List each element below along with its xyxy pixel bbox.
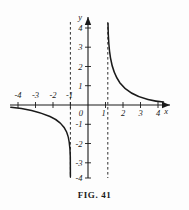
curve-left-branch <box>11 107 71 176</box>
curve-right-branch <box>108 24 164 103</box>
y-tick-label-3: 3 <box>77 42 82 52</box>
y-axis-label: y <box>77 12 82 22</box>
y-tick-label--1: -1 <box>75 119 82 129</box>
x-tick-label-2: 2 <box>121 108 126 118</box>
y-tick-label--2: -2 <box>75 139 83 149</box>
x-tick-label--3: -3 <box>32 90 39 100</box>
x-tick-label-3: 3 <box>137 108 142 118</box>
x-tick-label-1: 1 <box>101 108 105 118</box>
x-axis-label: x <box>163 106 168 116</box>
y-tick-label-2: 2 <box>78 62 83 72</box>
caption-text: FIG. 41 <box>78 190 112 200</box>
x-tick-label--4: -4 <box>14 90 22 100</box>
x-tick-label--2: -2 <box>49 90 57 100</box>
x-tick-label--1: -1 <box>66 90 73 100</box>
y-axis-arrowhead <box>85 17 91 25</box>
y-tick-label--3: -3 <box>75 158 82 168</box>
plot-area: -4 -3 -2 -1 1 2 3 4 4 3 2 1 -1 -2 -3 -4 … <box>0 0 189 190</box>
y-tick-label-4: 4 <box>78 23 83 33</box>
y-tick-label--4: -4 <box>75 173 83 183</box>
origin-label: 0 <box>79 108 84 118</box>
y-tick-label-1: 1 <box>78 81 82 91</box>
x-tick-label-4: 4 <box>156 108 161 118</box>
figure-container: -4 -3 -2 -1 1 2 3 4 4 3 2 1 -1 -2 -3 -4 … <box>0 0 189 210</box>
figure-caption: FIG. 41 <box>0 190 189 200</box>
